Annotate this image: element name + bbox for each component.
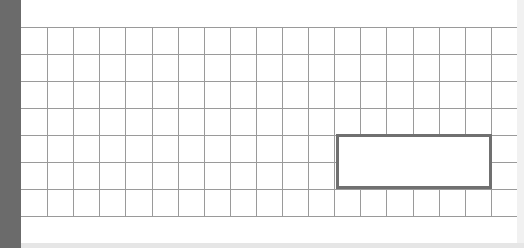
grid-row-line — [21, 216, 517, 217]
grid-column-line — [308, 27, 309, 216]
grid-column-line — [334, 27, 335, 216]
grid-column-line — [99, 27, 100, 216]
grid-column-line — [73, 27, 74, 216]
grid-column-line — [178, 27, 179, 216]
grid-page[interactable] — [21, 0, 517, 243]
grid-row-line — [21, 108, 517, 109]
grid-row-line — [21, 81, 517, 82]
grid-column-line — [204, 27, 205, 216]
left-sidebar-bar — [0, 0, 21, 248]
grid-row-line — [21, 27, 517, 28]
grid-row-line — [21, 189, 517, 190]
bottom-gutter — [21, 243, 524, 248]
grid-column-line — [47, 27, 48, 216]
grid-column-line — [152, 27, 153, 216]
selection-rectangle[interactable] — [336, 134, 492, 189]
grid-lines — [21, 0, 517, 243]
right-gutter — [517, 0, 524, 248]
grid-column-line — [125, 27, 126, 216]
grid-column-line — [282, 27, 283, 216]
grid-row-line — [21, 54, 517, 55]
grid-column-line — [256, 27, 257, 216]
grid-column-line — [230, 27, 231, 216]
